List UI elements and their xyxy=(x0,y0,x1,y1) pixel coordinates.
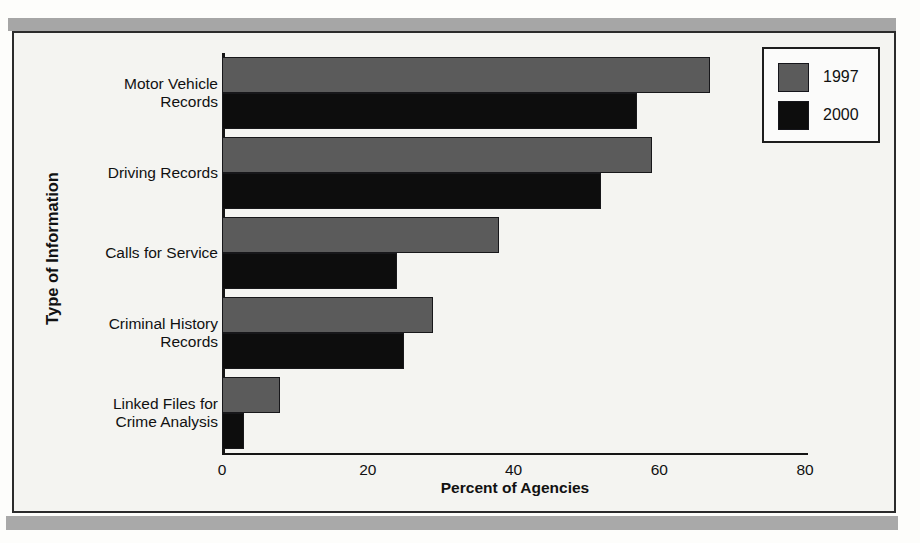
x-tick-60: 60 xyxy=(636,461,682,479)
x-axis-title: Percent of Agencies xyxy=(222,479,808,497)
legend-item-2000: 2000 xyxy=(778,96,878,134)
category-label-line: Calls for Service xyxy=(42,244,218,262)
bar-2000-5 xyxy=(222,413,244,449)
legend-swatch-1997 xyxy=(778,63,809,92)
category-label-line: Crime Analysis xyxy=(42,413,218,431)
x-tick-80: 80 xyxy=(782,461,828,479)
category-label-3: Calls for Service xyxy=(42,244,218,262)
scan-band-top xyxy=(8,18,896,31)
plot-area: 020406080 xyxy=(222,45,808,455)
legend-label-1997: 1997 xyxy=(823,68,859,86)
bar-1997-4 xyxy=(222,297,433,333)
category-label-line: Motor Vehicle xyxy=(42,75,218,93)
chart-figure: Type of Information Motor VehicleRecords… xyxy=(12,31,896,513)
category-label-line: Criminal History xyxy=(42,315,218,333)
scanned-page: Type of Information Motor VehicleRecords… xyxy=(0,0,920,543)
category-label-line: Records xyxy=(42,93,218,111)
category-axis-labels: Motor VehicleRecordsDriving RecordsCalls… xyxy=(28,45,218,455)
category-label-5: Linked Files forCrime Analysis xyxy=(42,395,218,431)
category-label-2: Driving Records xyxy=(42,164,218,182)
bar-1997-5 xyxy=(222,377,280,413)
x-axis-line xyxy=(222,453,808,455)
x-tick-0: 0 xyxy=(199,461,245,479)
legend-swatch-2000 xyxy=(778,101,809,130)
bar-2000-4 xyxy=(222,333,404,369)
bar-1997-3 xyxy=(222,217,499,253)
scan-band-bottom xyxy=(6,516,898,530)
bar-2000-3 xyxy=(222,253,397,289)
bar-2000-1 xyxy=(222,93,637,129)
chart-legend: 19972000 xyxy=(762,47,880,143)
x-tick-20: 20 xyxy=(345,461,391,479)
category-label-line: Driving Records xyxy=(42,164,218,182)
category-label-line: Linked Files for xyxy=(42,395,218,413)
legend-label-2000: 2000 xyxy=(823,106,859,124)
bar-1997-1 xyxy=(222,57,710,93)
bar-1997-2 xyxy=(222,137,652,173)
category-label-4: Criminal HistoryRecords xyxy=(42,315,218,351)
category-label-1: Motor VehicleRecords xyxy=(42,75,218,111)
category-label-line: Records xyxy=(42,333,218,351)
x-tick-40: 40 xyxy=(491,461,537,479)
bar-2000-2 xyxy=(222,173,601,209)
legend-item-1997: 1997 xyxy=(778,58,878,96)
